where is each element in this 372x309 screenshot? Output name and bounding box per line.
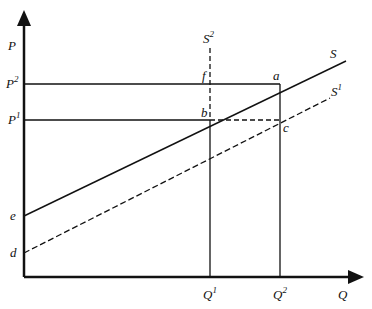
s-label: S [330,46,337,61]
point-c-label: c [283,120,289,135]
point-a-label: a [273,68,280,83]
s2-label: S2 [203,29,215,46]
q2-label: Q2 [273,285,287,302]
x-axis-label: Q [338,287,348,302]
point-e-label: e [10,208,16,223]
y-axis-label: P [7,38,16,53]
q1-label: Q1 [203,285,217,302]
point-b-label: b [201,105,208,120]
y-axis-arrow-icon [17,10,31,26]
s1-label: S1 [331,82,342,99]
x-axis-arrow-icon [348,270,364,284]
point-d-label: d [10,245,17,260]
p1-label: P1 [7,110,20,127]
p2-label: P2 [5,74,19,91]
point-f-label: f [202,68,208,83]
supply-diagram: P Q P2 P1 Q1 Q2 S2 S S1 a b c d e f [0,0,372,309]
